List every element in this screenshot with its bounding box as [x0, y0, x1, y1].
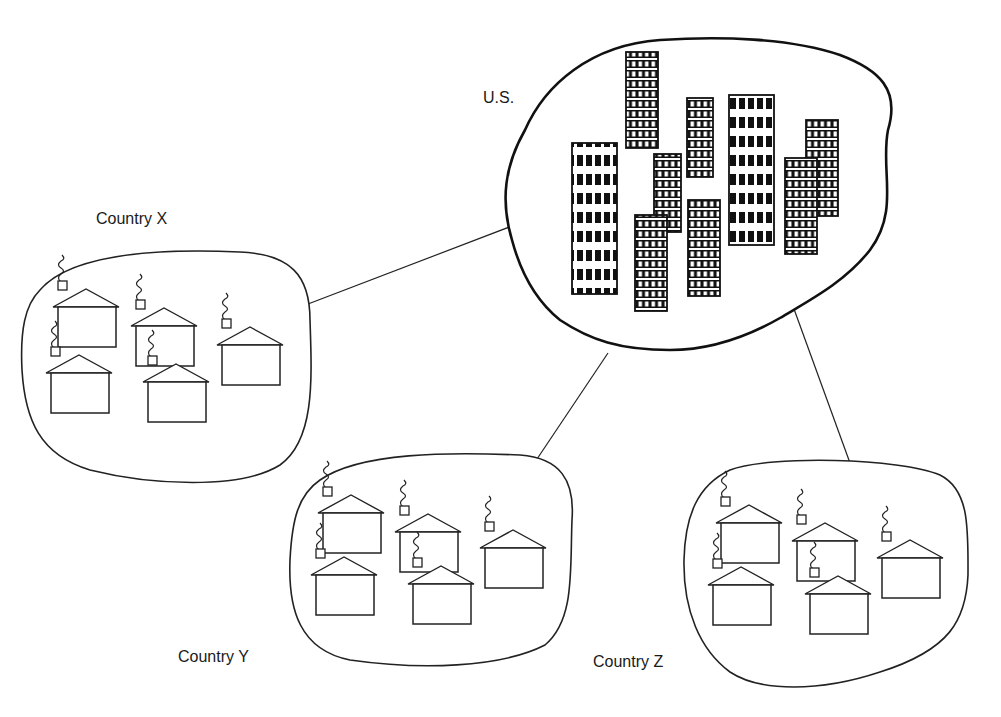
connection-us-z — [790, 298, 850, 463]
skyscraper-icon — [572, 143, 617, 294]
connection-us-y — [535, 353, 608, 462]
skyscraper-icon — [687, 98, 713, 177]
country-x-label: Country X — [96, 210, 167, 228]
skyscraper-icon — [688, 200, 720, 296]
us-region — [506, 38, 892, 350]
skyscraper-icon — [729, 95, 774, 245]
country-x-region — [22, 251, 311, 483]
diagram-canvas: U.S. Country X Country Y Country Z — [0, 0, 1001, 717]
country-z-region — [684, 460, 968, 687]
skyscraper-icon — [626, 52, 658, 148]
country-z-label: Country Z — [593, 653, 663, 671]
country-y-label: Country Y — [178, 648, 249, 666]
us-label: U.S. — [483, 89, 514, 107]
country-y-region — [290, 454, 573, 666]
connection-us-x — [308, 226, 512, 304]
skyscraper-icon — [635, 215, 667, 311]
skyscraper-icon — [785, 158, 817, 254]
